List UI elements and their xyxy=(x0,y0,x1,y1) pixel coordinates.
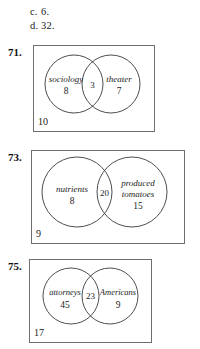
problem-73-universe-box: nutrients 8 20 produced tomatoes 15 9 xyxy=(31,150,185,244)
problem-73-venn-diagram: nutrients 8 20 produced tomatoes 15 xyxy=(32,151,184,243)
problem-73-right-count: 15 xyxy=(133,201,143,211)
problem-75-outside-count: 17 xyxy=(34,328,44,338)
answer-choice-d-letter: d. xyxy=(30,20,41,32)
problem-71-left-label: sociology xyxy=(49,74,84,84)
problem-75-venn-diagram: attorneys 45 23 Americans 9 xyxy=(30,260,151,342)
problem-71-outside-count: 10 xyxy=(38,117,48,127)
problem-71-right-label: theater xyxy=(106,74,132,84)
worksheet-page: c.6. d.32. 71. sociology 8 3 theater 7 1… xyxy=(0,0,200,349)
problem-73-left-label: nutrients xyxy=(56,184,88,194)
problem-75-intersection-count: 23 xyxy=(86,291,96,301)
problem-71-universe-box: sociology 8 3 theater 7 10 xyxy=(33,45,155,132)
problem-73-right-label-line2: tomatoes xyxy=(122,189,155,199)
problem-71-intersection-count: 3 xyxy=(90,80,95,90)
problem-75-universe-box: attorneys 45 23 Americans 9 17 xyxy=(29,259,152,343)
answer-choice-c-value: 6. xyxy=(41,6,49,17)
answer-choice-c-letter: c. xyxy=(30,6,41,18)
answer-choice-d-value: 32. xyxy=(41,20,55,31)
problem-75-right-label: Americans xyxy=(99,287,137,297)
problem-73-right-label-line1: produced xyxy=(120,178,155,188)
answer-choice-d: d.32. xyxy=(30,20,55,32)
problem-73-number: 73. xyxy=(8,152,22,163)
problem-73-left-count: 8 xyxy=(70,196,75,206)
problem-73-outside-count: 9 xyxy=(36,229,41,239)
answer-choice-c: c.6. xyxy=(30,6,49,18)
problem-71-right-count: 7 xyxy=(117,86,122,96)
problem-75-right-count: 9 xyxy=(116,300,121,310)
problem-71-venn-diagram: sociology 8 3 theater 7 xyxy=(34,46,154,131)
problem-75-number: 75. xyxy=(8,261,22,272)
problem-71-left-count: 8 xyxy=(64,86,69,96)
problem-75-left-label: attorneys xyxy=(49,287,81,297)
problem-73-intersection-count: 20 xyxy=(100,188,110,198)
problem-71-number: 71. xyxy=(8,47,22,58)
problem-75-left-count: 45 xyxy=(60,300,70,310)
